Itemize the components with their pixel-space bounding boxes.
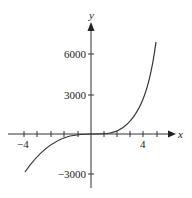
chart: x y −4 4 6000 3000 −3000	[0, 0, 192, 198]
x-axis-label: x	[177, 128, 183, 140]
y-tick-label-3000: 3000	[64, 89, 87, 101]
y-axis	[88, 22, 95, 188]
y-axis-label: y	[88, 9, 94, 21]
x-tick-label-4: 4	[140, 138, 146, 150]
y-tick-label-6000: 6000	[64, 48, 87, 60]
x-tick-label-neg4: −4	[17, 138, 29, 150]
y-tick-label-neg3000: −3000	[58, 168, 87, 180]
